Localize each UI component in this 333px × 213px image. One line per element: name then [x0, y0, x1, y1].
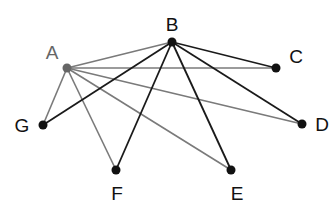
- edge-b-g: [43, 42, 172, 125]
- node-g: [39, 121, 48, 130]
- nodes-layer: [39, 38, 307, 175]
- node-label-f: F: [111, 183, 123, 204]
- node-label-e: E: [231, 183, 244, 204]
- node-label-c: C: [289, 46, 303, 67]
- edge-b-f: [116, 42, 172, 170]
- node-e: [227, 166, 236, 175]
- node-label-d: D: [315, 114, 329, 135]
- node-label-b: B: [166, 14, 179, 35]
- node-label-a: A: [46, 42, 59, 63]
- node-label-g: G: [15, 115, 30, 136]
- edge-b-c: [172, 42, 276, 68]
- node-d: [298, 120, 307, 129]
- node-a: [63, 64, 72, 73]
- graph-diagram: ABCDEFG: [0, 0, 333, 213]
- edges-layer: [43, 42, 302, 170]
- edge-a-b: [67, 42, 172, 68]
- node-c: [272, 64, 281, 73]
- node-b: [168, 38, 177, 47]
- node-f: [112, 166, 121, 175]
- edge-a-d: [67, 68, 302, 124]
